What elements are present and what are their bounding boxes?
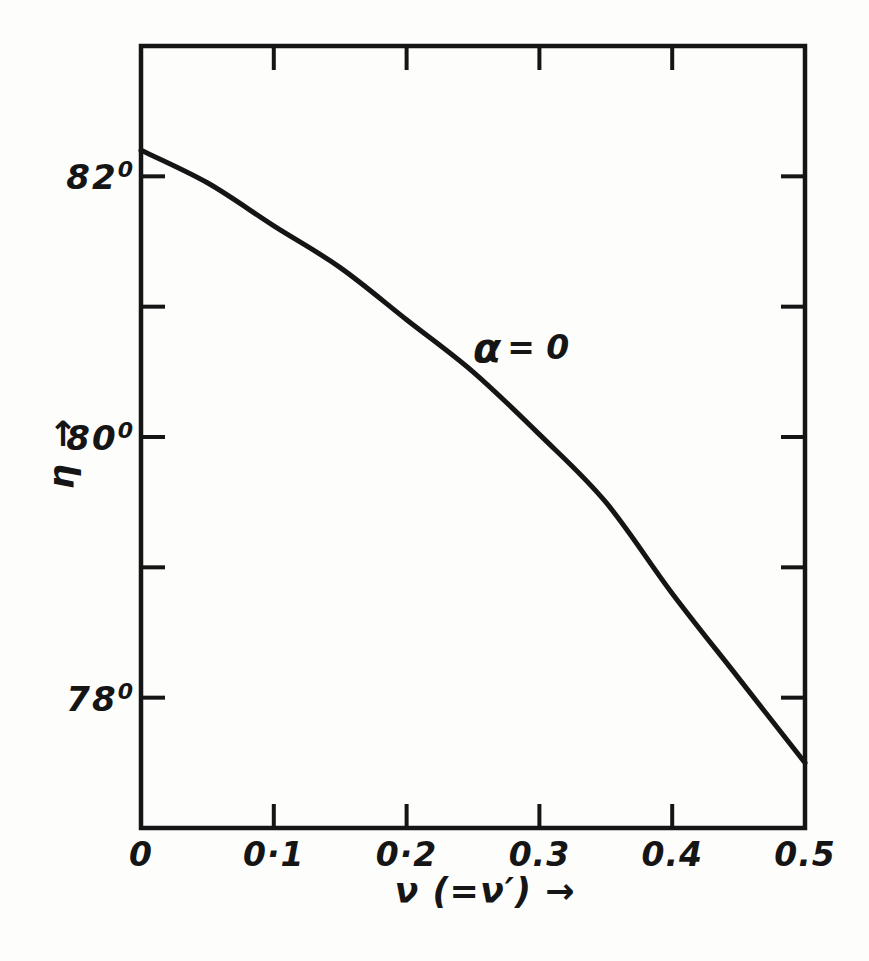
x-tick-label: 0.3 <box>484 838 594 871</box>
x-tick-label: 0·2 <box>352 838 462 871</box>
x-tick-label: 0.4 <box>617 838 727 871</box>
data-curve <box>141 150 805 763</box>
degree-superscript: 0 <box>118 418 133 443</box>
scanned-line-chart-figure: η → ν (=ν′) → α= 0 82080078000·10·20.30.… <box>0 0 869 961</box>
alpha-value: = 0 <box>507 328 569 367</box>
axis-frame <box>141 46 805 828</box>
x-axis-label: ν (=ν′) → <box>325 874 645 909</box>
x-tick-label: 0 <box>86 838 196 871</box>
y-tick-label: 800 <box>53 420 133 455</box>
y-tick-label: 820 <box>53 159 133 194</box>
curve-annotation: α= 0 <box>473 328 569 369</box>
degree-superscript: 0 <box>118 157 133 182</box>
x-tick-label: 0·1 <box>219 838 329 871</box>
chart-canvas <box>0 0 869 961</box>
alpha-symbol: α <box>473 324 501 372</box>
y-tick-label: 780 <box>53 681 133 716</box>
x-tick-label: 0.5 <box>750 838 860 871</box>
degree-superscript: 0 <box>118 679 133 704</box>
